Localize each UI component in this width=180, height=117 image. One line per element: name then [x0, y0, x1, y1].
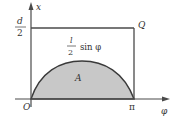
curve-label-denominator: 2 [68, 48, 73, 57]
curve-label-function: sin φ [80, 42, 101, 52]
corner-label-q: Q [138, 20, 146, 30]
x-tick-pi-label: π [129, 102, 135, 112]
phi-axis-arrow-icon [162, 97, 170, 102]
curve-label-numerator: l [70, 36, 73, 45]
x-axis-arrow-icon [29, 2, 34, 10]
diagram-canvas: x d 2 Q l 2 sin φ A O π φ [0, 0, 180, 117]
y-tick-numerator: d [17, 16, 23, 26]
x-axis-label: x [36, 2, 41, 12]
area-label-a: A [74, 73, 82, 83]
phi-axis-label: φ [161, 106, 168, 116]
y-tick-denominator: 2 [17, 28, 23, 38]
shaded-region-a [31, 61, 134, 99]
origin-label: O [23, 102, 31, 112]
